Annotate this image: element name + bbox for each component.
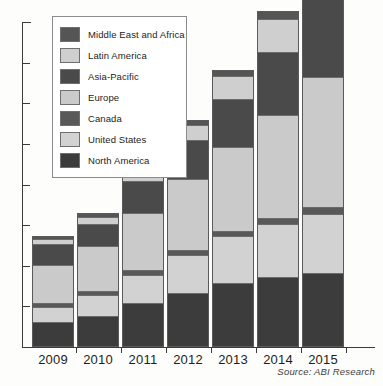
- bar-2010[interactable]: [77, 213, 119, 347]
- bar-segment: [303, 0, 343, 77]
- bar-segment: [213, 236, 253, 283]
- bar-segment: [123, 303, 163, 346]
- bar-segment: [78, 217, 118, 224]
- chart-legend: Middle East and AfricaLatin AmericaAsia-…: [52, 16, 187, 178]
- legend-item[interactable]: Canada: [60, 108, 179, 128]
- bar-segment: [33, 322, 73, 346]
- bar-segment: [258, 224, 298, 277]
- bar-segment: [303, 273, 343, 346]
- bar-segment: [33, 265, 73, 304]
- bar-segment: [213, 147, 253, 230]
- bar-segment: [33, 244, 73, 264]
- bar-segment: [123, 181, 163, 214]
- legend-label: Asia-Pacific: [88, 71, 139, 82]
- legend-label: Canada: [88, 113, 122, 124]
- bar-segment: [168, 293, 208, 346]
- bar-segment: [168, 255, 208, 294]
- bar-segment: [258, 52, 298, 115]
- legend-swatch-icon: [60, 132, 80, 147]
- legend-item[interactable]: North America: [60, 150, 179, 170]
- legend-label: Middle East and Africa: [88, 29, 185, 40]
- bar-2011[interactable]: [122, 168, 164, 347]
- legend-item[interactable]: Latin America: [60, 45, 179, 65]
- bar-segment: [123, 275, 163, 303]
- bar-segment: [78, 316, 118, 346]
- bar-2009[interactable]: [32, 236, 74, 347]
- bar-segment: [258, 115, 298, 219]
- bar-segment: [213, 76, 253, 98]
- legend-item[interactable]: Asia-Pacific: [60, 66, 179, 86]
- x-label-2015: 2015: [293, 352, 353, 367]
- bar-segment: [33, 307, 73, 321]
- bar-2014[interactable]: [257, 11, 299, 347]
- bar-segment: [303, 77, 343, 207]
- legend-swatch-icon: [60, 27, 80, 42]
- legend-swatch-icon: [60, 90, 80, 105]
- bar-segment: [258, 19, 298, 52]
- legend-swatch-icon: [60, 111, 80, 126]
- bar-segment: [78, 295, 118, 315]
- bar-2013[interactable]: [212, 70, 254, 347]
- legend-item[interactable]: Middle East and Africa: [60, 24, 179, 44]
- bar-segment: [78, 246, 118, 291]
- legend-label: Latin America: [88, 50, 147, 61]
- legend-swatch-icon: [60, 48, 80, 63]
- bar-segment: [78, 224, 118, 246]
- bar-segment: [303, 214, 343, 273]
- legend-swatch-icon: [60, 153, 80, 168]
- bar-segment: [168, 179, 208, 250]
- bar-2015[interactable]: [302, 0, 344, 347]
- bar-segment: [258, 12, 298, 19]
- legend-label: Europe: [88, 92, 119, 103]
- legend-swatch-icon: [60, 69, 80, 84]
- bar-segment: [213, 99, 253, 148]
- legend-item[interactable]: Europe: [60, 87, 179, 107]
- legend-item[interactable]: United States: [60, 129, 179, 149]
- legend-label: North America: [88, 155, 150, 166]
- bar-segment: [123, 213, 163, 270]
- source-note: Source: ABI Research: [277, 366, 375, 377]
- legend-label: United States: [88, 134, 146, 145]
- bar-segment: [213, 283, 253, 346]
- bar-segment: [258, 277, 298, 346]
- stacked-bar-chart: 2009201020112012201320142015 Middle East…: [0, 0, 383, 386]
